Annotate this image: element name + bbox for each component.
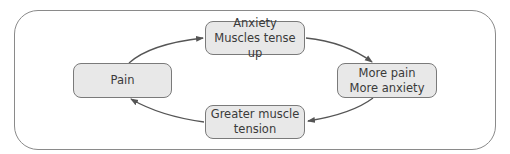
node-greater-tension-line-2: tension — [234, 122, 276, 137]
node-greater-tension: Greater muscle tension — [205, 105, 305, 139]
arrow-anxiety-to-more-pain — [306, 38, 372, 62]
node-pain: Pain — [73, 63, 172, 98]
node-pain-line-1: Pain — [111, 73, 135, 88]
node-more-pain-line-2: More anxiety — [350, 81, 425, 96]
arrow-tension-to-pain — [131, 99, 204, 122]
arrow-more-pain-to-tension — [308, 98, 373, 121]
node-greater-tension-line-1: Greater muscle — [211, 107, 300, 122]
node-more-pain-line-1: More pain — [359, 66, 416, 81]
node-anxiety-line-1: Anxiety — [233, 16, 277, 31]
node-anxiety-line-2: Muscles tense up — [206, 31, 304, 61]
node-more-pain: More pain More anxiety — [337, 63, 437, 98]
node-anxiety: Anxiety Muscles tense up — [205, 21, 305, 55]
arrow-pain-to-anxiety — [129, 38, 203, 63]
